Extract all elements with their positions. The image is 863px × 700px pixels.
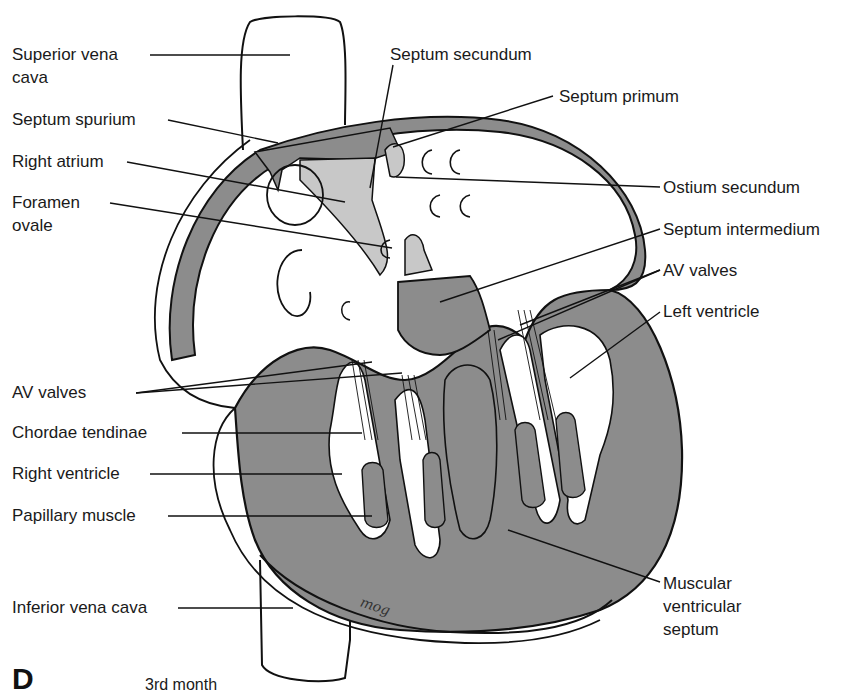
label-ostium-secundum: Ostium secundum	[663, 176, 800, 199]
label-septum-spurium: Septum spurium	[12, 108, 136, 131]
label-septum-intermedium: Septum intermedium	[663, 218, 820, 241]
heart-development-diagram: Superior vena cava Septum spurium Right …	[0, 0, 863, 700]
label-papillary-muscle: Papillary muscle	[12, 504, 136, 527]
label-av-valves-right: AV valves	[663, 259, 737, 282]
label-foramen-ovale: Foramen ovale	[12, 191, 80, 237]
panel-letter: D	[12, 662, 34, 696]
label-septum-primum: Septum primum	[559, 85, 679, 108]
figure-caption: 3rd month	[145, 676, 217, 694]
label-chordae-tendinae: Chordae tendinae	[12, 421, 147, 444]
label-left-ventricle: Left ventricle	[663, 300, 759, 323]
label-right-atrium: Right atrium	[12, 150, 104, 173]
label-muscular-ventricular-septum: Muscular ventricular septum	[663, 572, 741, 641]
label-inferior-vena-cava: Inferior vena cava	[12, 596, 147, 619]
label-av-valves-left: AV valves	[12, 381, 86, 404]
label-right-ventricle: Right ventricle	[12, 462, 120, 485]
label-superior-vena-cava: Superior vena cava	[12, 43, 118, 89]
label-septum-secundum: Septum secundum	[390, 43, 532, 66]
